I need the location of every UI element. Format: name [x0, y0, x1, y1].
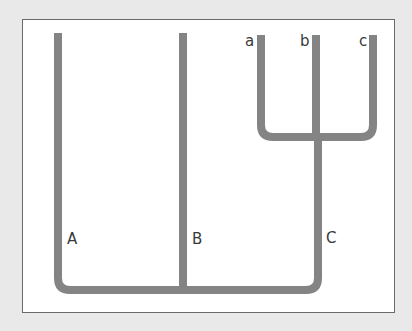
- label-a: a: [245, 34, 254, 49]
- label-B: B: [192, 232, 202, 247]
- tree-diagram: [0, 0, 412, 331]
- label-C: C: [326, 231, 336, 246]
- label-b: b: [300, 34, 310, 49]
- branch-A-to-C-root: [58, 33, 318, 290]
- label-A: A: [67, 232, 77, 247]
- label-c: c: [359, 34, 367, 49]
